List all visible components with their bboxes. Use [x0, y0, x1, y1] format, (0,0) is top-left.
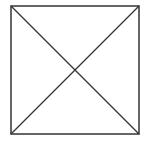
square-diagonals-diagram [0, 0, 147, 142]
